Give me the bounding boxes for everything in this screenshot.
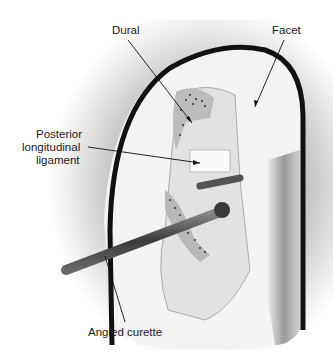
pll-strip [190,150,230,172]
lateral-wall [268,150,300,345]
label-facet: Facet [272,24,301,37]
curette-tip [214,202,230,218]
label-pll-line3: ligament [36,154,79,167]
label-pll-line2: longitudinal [22,141,80,154]
label-angled-curette: Angled curette [88,326,162,339]
label-dural: Dural [112,24,139,37]
label-pll-line1: Posterior [36,128,82,141]
illustration-canvas [0,0,333,363]
